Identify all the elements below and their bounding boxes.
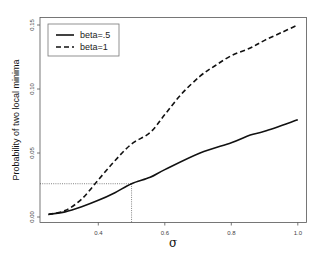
- y-tick-label: 0.15: [29, 19, 35, 31]
- reference-lines: [40, 184, 132, 223]
- x-tick-label: 0.4: [94, 230, 103, 236]
- series-line-beta-05: [48, 120, 297, 215]
- legend: beta=.5 beta=1: [48, 24, 119, 56]
- chart: 0.40.60.81.0 0.000.050.100.15 Probabilit…: [0, 0, 321, 259]
- y-tick-label: 0.00: [29, 211, 35, 223]
- x-tick-label: 0.8: [227, 230, 236, 236]
- y-tick-label: 0.10: [29, 83, 35, 95]
- x-axis-label: σ: [169, 236, 177, 250]
- legend-label-beta-1: beta=1: [80, 42, 108, 52]
- x-tick-label: 1.0: [294, 230, 303, 236]
- y-axis-label: Probability of two local minima: [11, 59, 21, 180]
- x-axis: 0.40.60.81.0: [94, 223, 303, 236]
- y-tick-label: 0.05: [29, 147, 35, 159]
- x-tick-label: 0.6: [161, 230, 170, 236]
- legend-label-beta-05: beta=.5: [80, 30, 110, 40]
- y-axis: 0.000.050.100.15: [29, 19, 40, 223]
